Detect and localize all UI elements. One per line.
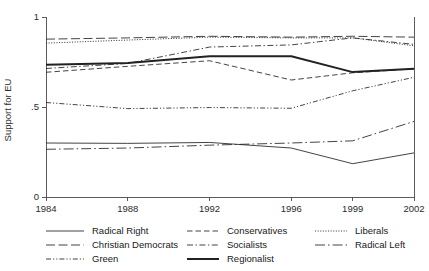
y-tick-label: 0: [34, 191, 39, 202]
series-lines: [46, 36, 414, 163]
legend-label-radical-right: Radical Right: [92, 225, 149, 236]
legend-label-radical-left: Radical Left: [355, 239, 406, 250]
legend-label-conservatives: Conservatives: [227, 225, 287, 236]
chart-legend: Radical RightChristian DemocratsGreenCon…: [46, 225, 406, 264]
x-axis-ticks: 198419881992199619992002: [35, 197, 424, 214]
series-line-radical-right: [46, 142, 414, 163]
legend-label-regionalist: Regionalist: [227, 253, 274, 264]
legend-label-socialists: Socialists: [227, 239, 267, 250]
legend-label-liberals: Liberals: [355, 225, 389, 236]
series-line-green: [46, 77, 414, 108]
x-tick-label: 1999: [342, 203, 363, 214]
chart-figure: 0.51 198419881992199619992002 Support fo…: [0, 0, 429, 271]
y-axis-ticks: 0.51: [31, 11, 46, 202]
x-tick-label: 2002: [403, 203, 424, 214]
x-tick-label: 1992: [199, 203, 220, 214]
line-chart: 0.51 198419881992199619992002 Support fo…: [0, 0, 429, 271]
series-line-regionalist: [46, 56, 414, 72]
x-tick-label: 1984: [35, 203, 56, 214]
series-line-radical-left: [46, 121, 414, 149]
legend-label-green: Green: [92, 253, 118, 264]
y-axis-title: Support for EU: [2, 78, 13, 141]
y-tick-label: 1: [34, 11, 39, 22]
x-tick-label: 1988: [117, 203, 138, 214]
x-tick-label: 1996: [281, 203, 302, 214]
legend-label-christian-democrats: Christian Democrats: [92, 239, 178, 250]
y-tick-label: .5: [31, 101, 39, 112]
